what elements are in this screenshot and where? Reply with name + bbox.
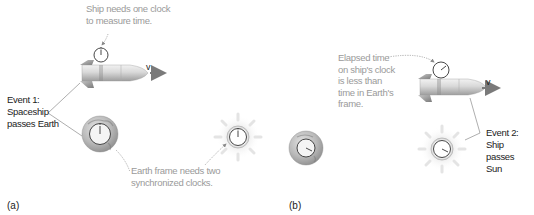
note-line: on ship's clock — [338, 64, 395, 76]
earth-icon — [82, 116, 118, 152]
sun-icon — [215, 114, 261, 160]
event-1-label: Event 1: Spaceship passes Earth — [7, 94, 59, 130]
note-line: Earth frame needs two — [131, 165, 220, 177]
velocity-label: v — [146, 62, 150, 74]
earth-icon — [289, 131, 323, 165]
diagram-canvas — [0, 0, 534, 215]
event-line: Sun — [486, 163, 534, 175]
note-line: Elapsed time — [338, 52, 395, 64]
clock-icon — [433, 62, 449, 78]
note-line: Ship needs one clock — [86, 3, 170, 15]
earth-frame-note: Earth frame needs two synchronized clock… — [131, 165, 220, 188]
event-line: Spaceship — [7, 106, 59, 118]
note-line: synchronized clocks. — [131, 177, 220, 189]
event-line: Event 2: — [486, 127, 534, 139]
note-line: is less than — [338, 75, 395, 87]
rocket-icon — [80, 60, 148, 88]
note-line: to measure time. — [86, 15, 170, 27]
velocity-label: v — [486, 77, 490, 89]
panel-b-label: (b) — [289, 200, 301, 211]
event-line: passes Earth — [7, 118, 59, 130]
elapsed-time-note: Elapsed time on ship's clock is less tha… — [338, 52, 395, 110]
ship-clock-note: Ship needs one clock to measure time. — [86, 3, 170, 26]
clock-icon — [94, 47, 108, 62]
event-2-label: Event 2: Ship passes Sun — [486, 127, 534, 175]
note-line: time in Earth's — [338, 87, 395, 99]
sun-icon — [419, 126, 465, 172]
panel-a-label: (a) — [7, 200, 19, 211]
rocket-icon — [418, 74, 486, 102]
event-line: Event 1: — [7, 94, 59, 106]
note-line: frame. — [338, 98, 395, 110]
event-line: Ship passes — [486, 139, 534, 163]
